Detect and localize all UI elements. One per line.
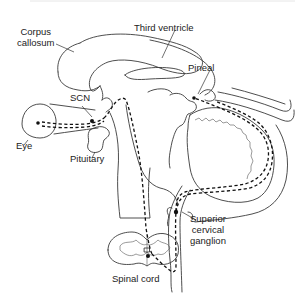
ganglion-dot bbox=[174, 210, 178, 214]
scg-label-line1: Superior bbox=[190, 213, 226, 224]
brainstem-thalamus-shape bbox=[102, 89, 196, 218]
corpus-callosum-shape bbox=[58, 34, 203, 100]
corpus-callosum-label-line1: Corpus bbox=[17, 26, 55, 37]
spinal-cord-dot bbox=[146, 254, 150, 258]
pineal-label: Pineal bbox=[188, 62, 214, 73]
synapse-dots bbox=[36, 96, 196, 258]
eye-label: Eye bbox=[16, 140, 32, 151]
neural-pathway bbox=[42, 98, 273, 272]
eye-retina-dot bbox=[36, 121, 40, 125]
third-ventricle-label: Third ventricle bbox=[134, 22, 194, 33]
spinal-cord-label: Spinal cord bbox=[112, 273, 160, 284]
scn-dot bbox=[90, 119, 94, 123]
pineal-pathway-diagram: Corpus callosum Third ventricle Pineal S… bbox=[0, 0, 295, 298]
corpus-callosum-label: Corpus callosum bbox=[17, 26, 55, 48]
neck-ganglion-shape bbox=[167, 186, 193, 292]
eye-shape bbox=[22, 104, 98, 138]
superior-cervical-ganglion-label: Superior cervical ganglion bbox=[190, 213, 226, 246]
scn-label: SCN bbox=[70, 92, 90, 103]
spinal-cord-cross-section bbox=[108, 232, 179, 266]
pituitary-shape bbox=[88, 127, 110, 153]
pituitary-label: Pituitary bbox=[70, 153, 104, 164]
corpus-callosum-label-line2: callosum bbox=[17, 37, 55, 48]
scg-label-line3: ganglion bbox=[190, 235, 226, 246]
pineal-dot bbox=[192, 96, 196, 100]
scg-label-line2: cervical bbox=[190, 224, 226, 235]
cerebellum-shape bbox=[187, 108, 274, 203]
